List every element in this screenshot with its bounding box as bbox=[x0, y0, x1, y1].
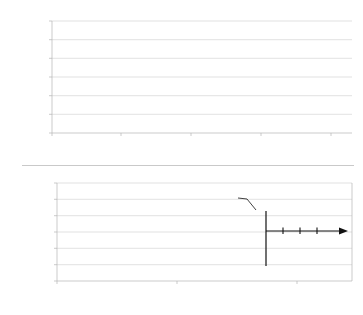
bottom-ticks bbox=[54, 183, 297, 284]
zero-attitude-arrowhead bbox=[339, 228, 348, 235]
figure-container bbox=[0, 0, 363, 315]
ducted-fan-leader-line bbox=[238, 198, 256, 210]
bottom-grid bbox=[57, 183, 352, 281]
top-grid bbox=[52, 21, 352, 133]
chart-bottom-svg bbox=[0, 165, 363, 315]
top-ticks bbox=[49, 21, 331, 136]
chart-bottom bbox=[0, 165, 363, 315]
chart-top bbox=[0, 0, 363, 158]
chart-top-svg bbox=[0, 0, 363, 158]
